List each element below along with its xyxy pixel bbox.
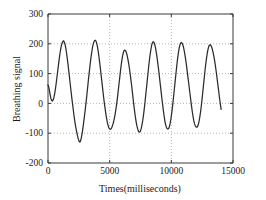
x-tick-label: 15000	[221, 166, 245, 176]
y-tick-label: -200	[26, 158, 44, 168]
y-tick-label: 300	[29, 9, 44, 19]
chart-figure: -200-1000100200300 050001000015000 Times…	[0, 0, 266, 200]
x-tick-label: 5000	[100, 166, 119, 176]
x-tick-label: 10000	[159, 166, 183, 176]
x-axis-title: Times(milliseconds)	[99, 183, 181, 195]
y-tick-label: 100	[29, 69, 44, 79]
x-tick-label: 0	[46, 166, 51, 176]
y-tick-label: 200	[29, 39, 44, 49]
y-axis-title: Breathing signal	[11, 56, 22, 122]
y-tick-label: -100	[26, 128, 44, 138]
breathing-signal-chart: -200-1000100200300 050001000015000 Times…	[0, 0, 266, 200]
y-tick-label: 0	[38, 99, 43, 109]
